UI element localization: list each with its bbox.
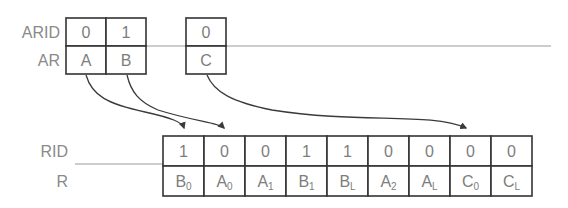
label-r: R (56, 173, 68, 190)
diagram-text-layer: ARID AR RID R 0 1 A B 0 C 1 0 0 1 1 0 0 … (0, 0, 568, 208)
r-base-5: A (380, 173, 391, 190)
r-base-2: A (257, 173, 268, 190)
r-base-3: B (298, 173, 309, 190)
r-value-2: A1 (257, 173, 274, 192)
label-arid: ARID (22, 24, 60, 41)
diagram-canvas: ARID AR RID R 0 1 A B 0 C 1 0 0 1 1 0 0 … (0, 0, 568, 208)
rid-value-6: 0 (425, 143, 434, 160)
label-ar: AR (38, 52, 60, 69)
r-sub-3: 1 (309, 181, 315, 192)
r-value-8: CL (503, 173, 521, 192)
r-sub-4: L (350, 181, 356, 192)
rid-value-4: 1 (343, 143, 352, 160)
r-value-3: B1 (298, 173, 315, 192)
ar-value-c: C (200, 52, 212, 69)
r-value-6: AL (421, 173, 438, 192)
rid-value-2: 0 (261, 143, 270, 160)
r-sub-8: L (515, 181, 521, 192)
r-base-4: B (339, 173, 350, 190)
rid-value-0: 1 (179, 143, 188, 160)
rid-value-7: 0 (466, 143, 475, 160)
r-value-1: A0 (216, 173, 233, 192)
r-base-1: A (216, 173, 227, 190)
r-base-6: A (421, 173, 432, 190)
r-base-7: C (462, 173, 474, 190)
rid-value-8: 0 (507, 143, 516, 160)
r-value-4: BL (339, 173, 356, 192)
rid-value-5: 0 (384, 143, 393, 160)
r-value-5: A2 (380, 173, 397, 192)
r-sub-2: 1 (268, 181, 274, 192)
r-value-7: C0 (462, 173, 480, 192)
label-rid: RID (40, 143, 68, 160)
r-sub-1: 0 (227, 181, 233, 192)
r-value-0: B0 (175, 173, 192, 192)
r-sub-6: L (432, 181, 438, 192)
arid-value-1: 1 (122, 24, 131, 41)
ar-value-0: A (81, 52, 92, 69)
r-sub-7: 0 (474, 181, 480, 192)
ar-value-1: B (121, 52, 132, 69)
rid-value-1: 0 (220, 143, 229, 160)
arid-value-0: 0 (82, 24, 91, 41)
r-sub-0: 0 (186, 181, 192, 192)
r-base-0: B (175, 173, 186, 190)
arid-value-c: 0 (202, 24, 211, 41)
r-base-8: C (503, 173, 515, 190)
r-sub-5: 2 (391, 181, 397, 192)
rid-value-3: 1 (302, 143, 311, 160)
